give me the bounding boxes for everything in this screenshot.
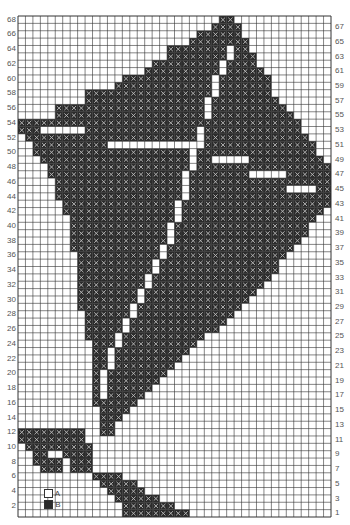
row-label: 9 [335,450,339,458]
row-label: 21 [335,362,344,370]
row-label: 49 [335,156,344,164]
row-label: 31 [335,288,344,296]
row-label: 54 [3,119,16,127]
legend-b: B [44,500,61,509]
row-label: 20 [3,369,16,377]
row-label: 52 [3,134,16,142]
row-label: 15 [335,406,344,414]
row-label: 39 [335,229,344,237]
row-label: 56 [3,104,16,112]
row-label: 45 [335,185,344,193]
row-label: 19 [335,377,344,385]
row-label: 30 [3,296,16,304]
legend-a: A [44,489,60,498]
row-label: 29 [335,303,344,311]
blank-square-icon [44,489,53,498]
row-label: 58 [3,89,16,97]
row-label: 32 [3,281,16,289]
row-label: 14 [3,414,16,422]
row-label: 40 [3,222,16,230]
row-label: 25 [335,332,344,340]
row-label: 1 [335,509,339,517]
row-label: 3 [335,495,339,503]
row-label: 4 [3,487,16,495]
legend-a-label: A [55,489,60,498]
row-label: 36 [3,251,16,259]
row-label: 11 [335,436,343,444]
row-label: 60 [3,75,16,83]
knitting-chart [0,0,350,525]
row-label: 5 [335,480,339,488]
row-label: 62 [3,60,16,68]
row-label: 26 [3,325,16,333]
row-label: 23 [335,347,344,355]
row-label: 37 [335,244,344,252]
row-label: 50 [3,148,16,156]
row-label: 28 [3,310,16,318]
row-label: 38 [3,237,16,245]
row-label: 65 [335,38,344,46]
row-label: 51 [335,141,344,149]
row-label: 46 [3,178,16,186]
row-label: 61 [335,67,344,75]
row-label: 18 [3,384,16,392]
row-label: 42 [3,207,16,215]
row-label: 13 [335,421,344,429]
row-label: 63 [335,53,344,61]
row-label: 57 [335,97,344,105]
row-label: 35 [335,259,344,267]
legend-b-label: B [55,500,60,509]
row-label: 59 [335,82,344,90]
row-label: 12 [3,428,16,436]
row-label: 24 [3,340,16,348]
row-label: 34 [3,266,16,274]
row-label: 41 [335,215,344,223]
row-label: 44 [3,193,16,201]
cross-square-icon [44,500,53,509]
row-label: 55 [335,111,344,119]
row-label: 33 [335,274,344,282]
row-label: 22 [3,355,16,363]
row-label: 7 [335,465,339,473]
row-label: 8 [3,458,16,466]
row-label: 16 [3,399,16,407]
row-label: 64 [3,45,16,53]
row-label: 66 [3,30,16,38]
row-label: 48 [3,163,16,171]
row-label: 53 [335,126,344,134]
row-label: 47 [335,170,344,178]
row-label: 2 [3,502,16,510]
row-label: 43 [335,200,344,208]
row-label: 27 [335,318,344,326]
row-label: 6 [3,472,16,480]
row-label: 10 [3,443,16,451]
row-label: 68 [3,16,16,24]
row-label: 17 [335,391,344,399]
row-label: 67 [335,23,344,31]
